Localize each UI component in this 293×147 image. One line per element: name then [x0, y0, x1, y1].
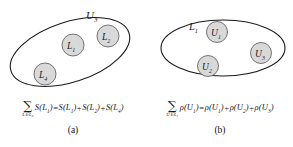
figure-container: U3 L1 L2 L4: [0, 0, 293, 147]
equation-lhs-b: ρ(U1): [180, 102, 199, 114]
summation-operator-b: ∑ U∈L₁: [166, 101, 178, 117]
panel-a: U3 L1 L2 L4: [0, 0, 146, 147]
inner-set-U2: U2: [198, 56, 219, 77]
inner-circle-L1: [62, 34, 84, 56]
equation-rhs-term-1-a: S(L1): [59, 102, 77, 114]
inner-set-L1: L1: [62, 34, 84, 56]
panel-caption-b: (b): [147, 120, 293, 140]
equation-rhs-term-2-a: S(L2): [82, 102, 100, 114]
sigma-icon: ∑: [168, 101, 177, 111]
equation-lhs-a: S(L1): [35, 102, 53, 114]
venn-diagram-b: L1 U1 U3 U2: [147, 0, 293, 96]
equation-rhs-term-2-b: ρ(U2): [230, 102, 249, 114]
summation-operator-a: ∑ L∈L₃: [22, 101, 33, 117]
inner-circle-L4: [34, 63, 56, 85]
inner-set-L4: L4: [34, 63, 56, 85]
equation-rhs-term-3-a: S(L4): [106, 102, 124, 114]
inner-circle-L2: [97, 25, 119, 47]
summation-subscript-b: U∈L₁: [166, 112, 178, 117]
inner-set-U3: U3: [251, 43, 272, 64]
sigma-icon: ∑: [23, 101, 32, 111]
panel-caption-a: (a): [0, 120, 146, 140]
outer-set-label-a: U3: [86, 9, 98, 24]
equation-rhs-term-1-b: ρ(U1): [205, 102, 224, 114]
equation-a: ∑ L∈L₃ S(L1) = S(L1) + S(L2) + S(L4): [0, 96, 146, 120]
equation-b: ∑ U∈L₁ ρ(U1) = ρ(U1) + ρ(U2) + ρ(U3): [147, 96, 293, 120]
panel-b: L1 U1 U3 U2: [147, 0, 293, 147]
venn-diagram-a: U3 L1 L2 L4: [0, 0, 146, 96]
inner-set-L2: L2: [97, 25, 119, 47]
inner-set-U1: U1: [207, 22, 228, 43]
summation-subscript-a: L∈L₃: [22, 112, 33, 117]
equation-rhs-term-3-b: ρ(U3): [255, 102, 274, 114]
